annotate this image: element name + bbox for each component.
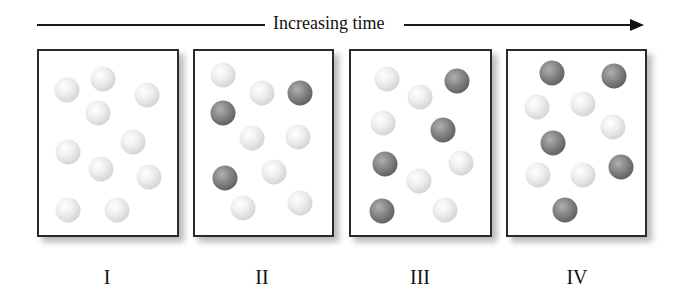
dark-molecule-icon	[609, 155, 634, 180]
light-molecule-icon	[571, 92, 596, 117]
dark-molecule-icon	[431, 118, 456, 143]
light-molecule-icon	[56, 198, 81, 223]
panel-label-2: II	[255, 266, 268, 289]
light-molecule-icon	[250, 81, 275, 106]
panel-label-3: III	[410, 266, 430, 289]
light-molecule-icon	[449, 151, 474, 176]
light-molecule-icon	[135, 83, 160, 108]
dark-molecule-icon	[370, 199, 395, 224]
time-arrow-line-right	[404, 24, 634, 26]
light-molecule-icon	[121, 130, 146, 155]
light-molecule-icon	[56, 140, 81, 165]
light-molecule-icon	[371, 111, 396, 136]
light-molecule-icon	[408, 85, 433, 110]
panel-label-4: IV	[566, 266, 587, 289]
light-molecule-icon	[262, 160, 287, 185]
dark-molecule-icon	[288, 81, 313, 106]
dark-molecule-icon	[213, 166, 238, 191]
light-molecule-icon	[55, 78, 80, 103]
time-axis-title: Increasing time	[273, 13, 384, 33]
light-molecule-icon	[231, 196, 256, 221]
light-molecule-icon	[89, 157, 114, 182]
light-molecule-icon	[137, 165, 162, 190]
light-molecule-icon	[286, 125, 311, 150]
light-molecule-icon	[105, 198, 130, 223]
light-molecule-icon	[211, 63, 236, 88]
panel-label-1: I	[104, 266, 111, 289]
light-molecule-icon	[571, 163, 596, 188]
dark-molecule-icon	[211, 101, 236, 126]
dark-molecule-icon	[373, 152, 398, 177]
dark-molecule-icon	[540, 61, 565, 86]
time-arrow-line-left	[37, 24, 265, 26]
light-molecule-icon	[240, 126, 265, 151]
dark-molecule-icon	[445, 69, 470, 94]
dark-molecule-icon	[602, 64, 627, 89]
light-molecule-icon	[525, 95, 550, 120]
arrowhead-icon	[630, 19, 644, 31]
dark-molecule-icon	[553, 198, 578, 223]
light-molecule-icon	[86, 101, 111, 126]
light-molecule-icon	[91, 67, 116, 92]
light-molecule-icon	[375, 67, 400, 92]
light-molecule-icon	[433, 198, 458, 223]
dark-molecule-icon	[541, 131, 566, 156]
light-molecule-icon	[288, 191, 313, 216]
light-molecule-icon	[407, 169, 432, 194]
light-molecule-icon	[526, 163, 551, 188]
light-molecule-icon	[601, 115, 626, 140]
